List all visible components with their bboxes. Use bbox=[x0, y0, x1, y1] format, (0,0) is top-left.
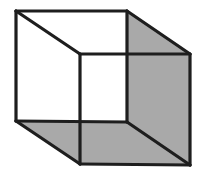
edge-connector-top-left bbox=[16, 11, 80, 54]
cube-diagram: Shaded transparent cube (Necker cube) bbox=[0, 0, 206, 180]
shaded-faces-group bbox=[16, 11, 190, 165]
edge-front-bottom bbox=[80, 164, 190, 165]
edge-back-bottom bbox=[16, 121, 127, 122]
figure-canvas: Shaded transparent cube (Necker cube) bbox=[0, 0, 206, 180]
